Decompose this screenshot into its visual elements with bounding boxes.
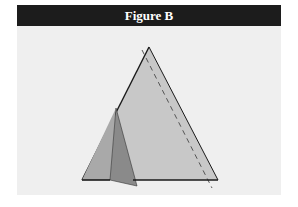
folded-triangle-diagram bbox=[0, 0, 298, 207]
